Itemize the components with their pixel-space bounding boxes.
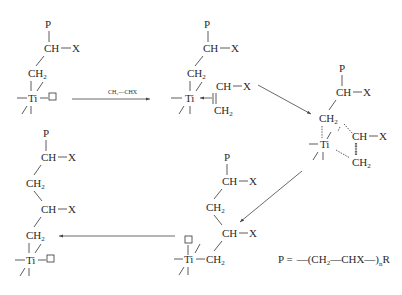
bond-line [179,106,184,114]
bond-line [313,152,318,160]
bond-line [22,106,27,114]
ch2-group: CH2 [352,156,371,170]
bond-line [36,56,44,66]
substituent-x: X [363,86,371,98]
bond-line [214,189,222,199]
ch-group: CH [216,80,231,92]
substituent-x: X [72,42,80,54]
reagent-label: CH₂—CHX [108,89,138,95]
ch2-group: CH2 [26,177,45,191]
bond-line [37,82,43,91]
ch2-group: CH2 [28,67,47,81]
bond-line [214,241,222,251]
bond-line [214,215,222,225]
titanium-atom: Ti [320,138,329,150]
transition-state-structure: P CH X CH2 Ti CH X CH2 [309,62,387,170]
polymer-definition-legend: P =—(CH2—CHX—)nR [278,253,391,268]
ch-group: CH [41,203,56,215]
titanium-atom: Ti [28,92,37,104]
ch-group: CH [44,42,59,54]
substituent-x: X [231,42,239,54]
bond-line [20,268,25,276]
ch-group: CH [352,130,367,142]
partial-bond [338,127,340,131]
pi-to-transition-arrow [258,85,311,114]
partial-bond [336,150,350,158]
bond-line [35,244,41,253]
ch2-group: CH2 [206,253,225,267]
bond-line [329,100,336,110]
ch2-group: CH2 [187,67,206,81]
ch2-group: CH2 [214,104,233,118]
ch-group: CH [222,227,237,239]
substituent-x: X [243,80,251,92]
titanium-atom: Ti [26,254,35,266]
substituent-x: X [249,175,257,187]
bond-line [195,56,203,66]
polymer-chain-label: P [204,18,210,30]
substituent-x: X [379,130,387,142]
ch-group: CH [336,86,351,98]
ch-group: CH [222,175,237,187]
ch2-group: CH2 [319,112,338,126]
vacant-site-icon [185,236,192,243]
polymerization-mechanism-diagram: P CH X CH2 Ti CH₂—CHX P CH X CH2 Ti [0,0,402,295]
bond-line [195,244,200,253]
legend-formula: P =—(CH2—CHX—)nR [278,253,391,268]
titanium-atom: Ti [185,92,194,104]
substituent-x: X [68,151,76,163]
bond-line [179,267,184,275]
ch-group: CH [41,151,56,163]
insertion-product-structure: P CH X CH2 CH X CH2 Ti [174,151,257,275]
ch-group: CH [203,42,218,54]
bond-line [34,191,42,201]
pi-complex-structure: P CH X CH2 Ti CH X CH2 [171,18,251,118]
polymer-chain-label: P [339,62,345,74]
monomer-addition-arrow: CH₂—CHX [72,89,150,99]
substituent-x: X [249,227,257,239]
polymer-chain-label: P [43,127,49,139]
polymer-chain-label: P [45,18,51,30]
bond-line [196,82,202,91]
bond-line [34,217,41,227]
bond-line [34,165,41,175]
regenerated-center-structure: P CH X CH2 CH X CH2 Ti [15,127,76,276]
active-center-structure: P CH X CH2 Ti [17,18,80,114]
titanium-atom: Ti [184,253,193,265]
vacant-site-icon [47,255,54,262]
vacant-site-icon [49,93,56,100]
substituent-x: X [68,203,76,215]
ch2-group: CH2 [26,229,45,243]
ch2-group: CH2 [206,201,225,215]
polymer-chain-label: P [224,151,230,163]
